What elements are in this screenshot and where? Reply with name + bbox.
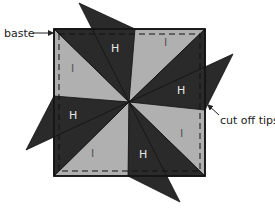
label-i-right: I [180, 127, 183, 140]
cut-off-tips-label: cut off tips [220, 114, 275, 127]
cut-off-tips-arrow-icon [208, 105, 219, 115]
baste-label: baste [4, 27, 35, 40]
label-h-bottom: H [139, 148, 147, 161]
label-i-bottom: I [91, 147, 94, 160]
label-i-top: I [164, 36, 167, 49]
label-h-left: H [69, 109, 77, 122]
pinwheel-block-diagram: H I H I H I H I baste cut off tips [0, 0, 275, 212]
label-h-top: H [111, 42, 119, 55]
label-h-right: H [177, 84, 185, 97]
label-i-left: I [71, 62, 74, 75]
